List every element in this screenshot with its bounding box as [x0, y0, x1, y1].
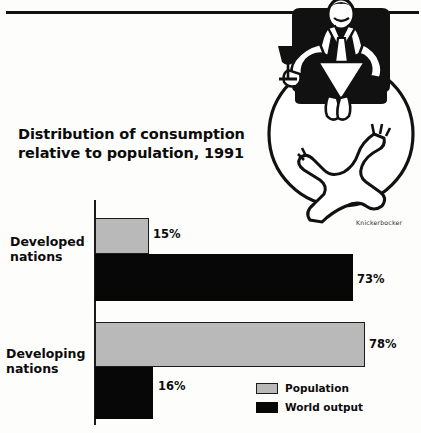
figure-page: Distribution of consumption relative to … [0, 0, 421, 433]
legend-item-world-output: World output [256, 399, 416, 415]
value-developed-population: 15% [153, 227, 181, 241]
value-developing-population: 78% [369, 337, 397, 351]
legend-item-population: Population [256, 380, 416, 396]
value-developing-world-output: 16% [158, 379, 186, 393]
value-developed-world-output: 73% [357, 272, 385, 286]
group-label-developing-line-2: nations [6, 361, 59, 376]
bar-developing-world-output [95, 367, 153, 419]
top-rule-left [6, 11, 306, 14]
cartoon-head [328, 0, 354, 29]
group-label-developing-nations: Developing nations [6, 346, 98, 377]
legend-label-world-output: World output [285, 401, 363, 413]
bar-developed-population [95, 218, 149, 254]
chart-title-line-1: Distribution of consumption [18, 126, 245, 142]
bar-developed-world-output [95, 254, 353, 301]
world-output-swatch-icon [256, 402, 278, 413]
chart-legend: Population World output [256, 380, 416, 418]
group-label-developed-line-2: nations [10, 249, 63, 264]
population-swatch-icon [256, 383, 278, 394]
group-label-developed-nations: Developed nations [10, 234, 94, 265]
chart-title: Distribution of consumption relative to … [18, 125, 268, 162]
legend-label-population: Population [285, 382, 349, 394]
group-label-developing-line-1: Developing [6, 346, 85, 361]
bar-developing-population [95, 322, 365, 367]
group-label-developed-line-1: Developed [10, 234, 85, 249]
chart-title-line-2: relative to population, 1991 [18, 144, 268, 163]
